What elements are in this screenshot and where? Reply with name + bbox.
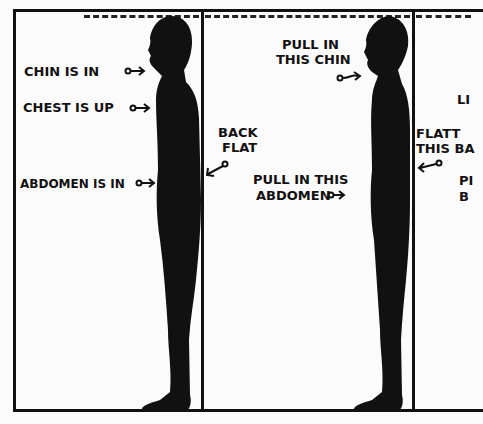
label-back-flat-2: FLAT [222,141,257,155]
label-chest-up: CHEST IS UP [23,101,114,115]
label-partial-3: B [459,190,469,204]
figure-good-posture [142,16,201,411]
label-pull-abdomen-1: PULL IN THIS [253,173,348,187]
label-abdomen-in: ABDOMEN IS IN [20,177,125,191]
label-partial-1: LI [457,93,470,107]
label-partial-flat-1: FLATT [416,127,460,141]
label-pull-abdomen-2: ABDOMEN [256,189,331,203]
label-partial-2: PI [459,174,473,188]
label-back-flat-1: BACK [218,126,258,140]
label-chin-in: CHIN IS IN [24,65,99,79]
label-pull-chin-1: PULL IN [282,38,339,52]
figure-bad-posture [354,16,410,411]
label-pull-chin-2: THIS CHIN [276,53,351,67]
label-partial-flat-2: THIS BA [416,142,474,156]
